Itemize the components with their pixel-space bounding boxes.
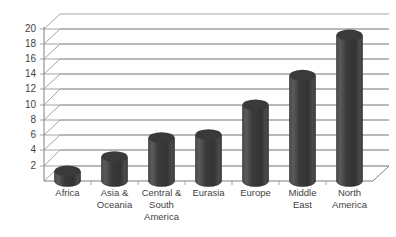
bar-body (196, 135, 222, 187)
x-tick-label: MiddleEast (289, 187, 317, 210)
bar-body (243, 105, 269, 187)
x-tick-labels: AfricaAsia &OceaniaCentral &SouthAmerica… (55, 187, 367, 222)
bar-cap (337, 30, 363, 41)
x-tick-label: Europe (240, 187, 271, 198)
y-tick-label: 8 (30, 114, 36, 125)
y-tick-label: 16 (25, 53, 37, 64)
x-tick-label: NorthAmerica (332, 187, 368, 210)
y-axis (40, 27, 44, 181)
bar-cap (149, 132, 175, 143)
bar (149, 132, 175, 186)
bar-body (337, 35, 363, 186)
y-tick-label: 2 (30, 160, 36, 171)
bar (243, 100, 269, 187)
y-tick-label: 10 (25, 99, 37, 110)
bar-series (55, 30, 363, 187)
x-tick-label: Eurasia (192, 187, 225, 198)
bar-cap (55, 166, 81, 177)
y-tick-label: 12 (25, 83, 37, 94)
x-tick-label: Africa (55, 187, 80, 198)
y-tick-label: 4 (30, 144, 36, 155)
y-tick-label: 14 (25, 68, 37, 79)
y-tick-label: 6 (30, 129, 36, 140)
y-tick-label: 18 (25, 38, 37, 49)
bar-chart: 20 18 16 14 12 10 8 6 4 2 AfricaAsia &Oc… (0, 0, 396, 237)
bar (55, 166, 81, 187)
bar-body (149, 138, 175, 187)
bar (196, 129, 222, 186)
bar-cap (290, 70, 316, 81)
y-tick-label: 20 (25, 23, 37, 34)
bar (337, 30, 363, 187)
chart-canvas: 20 18 16 14 12 10 8 6 4 2 AfricaAsia &Oc… (0, 0, 396, 237)
x-tick-label: Central &SouthAmerica (142, 187, 182, 222)
bar-body (290, 75, 316, 186)
bar-cap (102, 151, 128, 162)
y-tick-labels: 20 18 16 14 12 10 8 6 4 2 (25, 23, 37, 171)
bar (290, 70, 316, 187)
bar-cap (196, 129, 222, 140)
x-tick-label: Asia &Oceania (97, 187, 133, 210)
bar (102, 151, 128, 186)
bar-cap (243, 100, 269, 111)
